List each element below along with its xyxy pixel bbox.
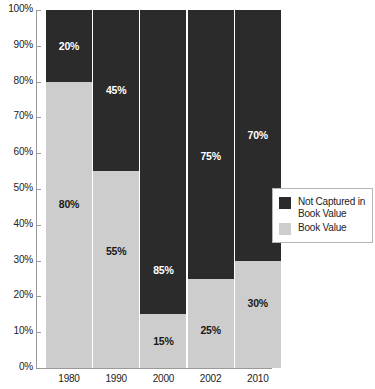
y-axis-tick-label: 50%	[14, 182, 33, 193]
legend-item[interactable]: Not Captured in Book Value	[279, 196, 365, 220]
x-axis-label-2010: 2010	[235, 373, 281, 384]
bar-segment-book-value[interactable]: 55%	[93, 171, 139, 368]
bar-segment-value-label: 45%	[106, 85, 126, 96]
stacked-bar-chart: 100%90%80%70%60%50%40%30%20%10%0% 20%80%…	[0, 0, 375, 389]
y-axis-tick-mark	[36, 368, 41, 369]
bar-segment-value-label: 55%	[106, 246, 126, 257]
legend-item[interactable]: Book Value	[279, 222, 346, 235]
y-axis-tick-label: 10%	[14, 325, 33, 336]
y-axis-tick-label: 0%	[19, 361, 33, 372]
y-axis-tick-label: 30%	[14, 254, 33, 265]
x-axis-label-2002: 2002	[188, 373, 234, 384]
y-axis-tick-label: 40%	[14, 218, 33, 229]
plot-area: 20%80%45%55%85%15%75%25%70%30%	[36, 10, 272, 368]
chart-legend: Not Captured in Book ValueBook Value	[272, 188, 373, 243]
bar-segment-not-captured[interactable]: 75%	[188, 10, 234, 279]
bar-column[interactable]: 85%15%	[140, 10, 186, 368]
bar-segment-not-captured[interactable]: 20%	[46, 10, 92, 82]
y-axis-tick-label: 80%	[14, 75, 33, 86]
legend-item-label: Book Value	[298, 222, 346, 234]
bar-segment-value-label: 75%	[200, 151, 220, 162]
bar-segment-value-label: 15%	[153, 336, 173, 347]
bar-column[interactable]: 45%55%	[93, 10, 139, 368]
bar-segment-book-value[interactable]: 25%	[188, 279, 234, 369]
x-axis-label-2000: 2000	[140, 373, 186, 384]
y-axis-tick-label: 100%	[8, 3, 33, 14]
bar-column[interactable]: 75%25%	[188, 10, 234, 368]
legend-swatch-icon	[279, 197, 291, 209]
x-axis-line	[36, 368, 272, 369]
y-axis-tick-label: 70%	[14, 110, 33, 121]
bar-segment-not-captured[interactable]: 45%	[93, 10, 139, 171]
legend-swatch-icon	[279, 223, 291, 235]
bar-segment-value-label: 20%	[59, 41, 79, 52]
bar-segment-book-value[interactable]: 30%	[235, 261, 281, 368]
y-axis-tick-label: 60%	[14, 146, 33, 157]
bar-segment-value-label: 80%	[59, 199, 79, 210]
bar-segment-value-label: 70%	[248, 130, 268, 141]
x-axis-label-1990: 1990	[93, 373, 139, 384]
legend-item-label: Not Captured in Book Value	[298, 196, 365, 220]
bar-column[interactable]: 20%80%	[46, 10, 92, 368]
bar-segment-not-captured[interactable]: 85%	[140, 10, 186, 314]
bar-segment-book-value[interactable]: 15%	[140, 314, 186, 368]
y-axis-tick-label: 90%	[14, 39, 33, 50]
bar-segment-value-label: 25%	[200, 325, 220, 336]
y-axis-tick-label: 20%	[14, 289, 33, 300]
x-axis-label-1980: 1980	[46, 373, 92, 384]
bar-segment-book-value[interactable]: 80%	[46, 82, 92, 368]
bar-segment-value-label: 30%	[248, 298, 268, 309]
bar-segment-value-label: 85%	[153, 265, 173, 276]
